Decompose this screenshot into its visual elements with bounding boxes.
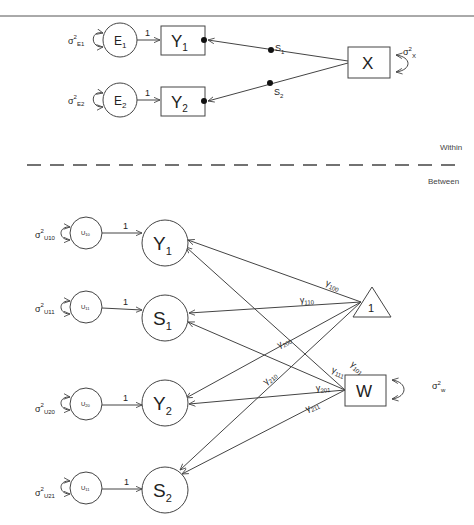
svg-text:1: 1 xyxy=(123,393,128,403)
svg-text:S1: S1 xyxy=(275,43,285,55)
svg-text:S2: S2 xyxy=(274,87,284,99)
svg-text:1: 1 xyxy=(124,477,129,487)
within-section: E1 σ2E1 1 Y1 E2 σ2E2 1 Y2 S1 xyxy=(68,23,416,117)
random-slope-dot xyxy=(201,37,207,43)
between-section: γ100 γ110 γ200 γ210 γ101 γ111 γ201 γ211 … xyxy=(35,217,446,513)
svg-text:σ2E1: σ2E1 xyxy=(68,34,85,47)
svg-text:γ101: γ101 xyxy=(348,359,367,377)
svg-text:γ100: γ100 xyxy=(324,278,342,294)
svg-text:1: 1 xyxy=(145,88,150,98)
svg-text:U20: U20 xyxy=(81,401,91,408)
svg-text:σ2E2: σ2E2 xyxy=(68,94,85,107)
between-row-s1: σ2U11 U11 1 S1 xyxy=(35,291,188,341)
variance-loop-w xyxy=(392,380,404,399)
svg-text:σ2U10: σ2U10 xyxy=(35,228,56,241)
within-y1: Y1 xyxy=(161,26,207,55)
path-diagram: E1 σ2E1 1 Y1 E2 σ2E2 1 Y2 S1 xyxy=(0,0,474,525)
path-g101 xyxy=(186,247,345,390)
svg-text:U11: U11 xyxy=(81,485,90,492)
random-slope-dot xyxy=(201,98,207,104)
between-row-y1: σ2U10 U10 1 Y1 xyxy=(35,217,188,266)
within-y2: Y2 xyxy=(161,87,207,116)
svg-text:1: 1 xyxy=(123,297,128,307)
residual-e1: E1 σ2E1 xyxy=(68,23,137,57)
within-label: Within xyxy=(440,143,462,152)
svg-text:1: 1 xyxy=(123,221,128,231)
svg-text:σ2X: σ2X xyxy=(403,46,416,59)
svg-text:σ2w: σ2w xyxy=(432,380,446,393)
svg-text:γ201: γ201 xyxy=(315,382,331,394)
residual-e2: E2 σ2E2 xyxy=(68,83,137,117)
path-g110 xyxy=(189,302,361,313)
svg-text:U10: U10 xyxy=(81,230,91,237)
variance-loop-x xyxy=(396,55,408,72)
svg-text:σ2U11: σ2U11 xyxy=(35,302,55,315)
svg-text:W: W xyxy=(356,382,372,401)
between-label: Between xyxy=(428,177,459,186)
svg-text:γ211: γ211 xyxy=(304,399,322,415)
between-w: W σ2w xyxy=(345,375,446,406)
svg-text:σ2U20: σ2U20 xyxy=(35,402,56,415)
svg-text:1: 1 xyxy=(145,28,150,38)
svg-text:σ2U21: σ2U21 xyxy=(35,486,56,499)
path-g100 xyxy=(188,240,361,302)
between-row-y2: σ2U20 U20 1 Y2 xyxy=(35,380,188,426)
within-x: X σ2X xyxy=(348,46,416,78)
variance-loop-e1 xyxy=(93,33,103,47)
variance-loop-e2 xyxy=(93,93,103,107)
between-row-s2: σ2U21 U11 1 S2 xyxy=(35,467,188,513)
svg-text:γ200: γ200 xyxy=(275,334,294,351)
svg-text:U11: U11 xyxy=(81,304,90,311)
svg-text:1: 1 xyxy=(368,302,374,314)
svg-text:γ210: γ210 xyxy=(261,369,280,387)
svg-text:γ110: γ110 xyxy=(300,294,315,306)
svg-text:X: X xyxy=(362,54,373,73)
